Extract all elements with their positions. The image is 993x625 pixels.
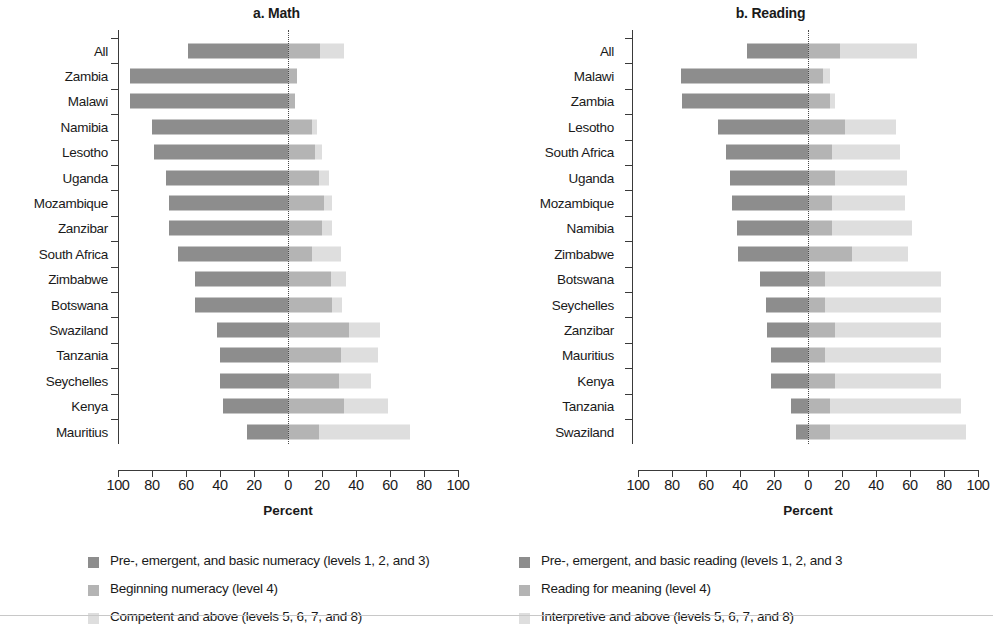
bar-segment: [747, 43, 808, 58]
bar-segment: [288, 297, 332, 312]
x-axis-tick: [740, 470, 741, 477]
legend-swatch: [88, 557, 99, 568]
bar-segment: [808, 399, 830, 414]
zero-reference-line-math: [288, 30, 289, 444]
x-axis-tick: [390, 470, 391, 477]
stacked-bar: [496, 43, 993, 58]
bar-segment: [332, 297, 342, 312]
bar-segment: [288, 424, 319, 439]
bar-segment: [766, 297, 809, 312]
chart-row: Zanzibar: [496, 317, 993, 342]
legend-swatch: [519, 557, 530, 568]
y-axis-tick: [111, 140, 118, 141]
stacked-bar: [496, 373, 993, 388]
bar-segment: [830, 399, 961, 414]
chart-row: Malawi: [496, 63, 993, 88]
bar-segment: [730, 170, 808, 185]
y-axis-tick: [625, 241, 632, 242]
y-axis-tick: [625, 343, 632, 344]
stacked-bar: [0, 196, 497, 211]
chart-row: South Africa: [0, 241, 497, 266]
stacked-bar: [496, 170, 993, 185]
bar-segment: [288, 43, 320, 58]
chart-row: Mozambique: [0, 190, 497, 215]
bar-segment: [339, 373, 371, 388]
chart-row: Uganda: [496, 165, 993, 190]
chart-row: Swaziland: [0, 317, 497, 342]
bar-segment: [195, 272, 289, 287]
stacked-bar: [496, 348, 993, 363]
x-axis-tick: [978, 470, 979, 477]
bar-segment: [166, 170, 288, 185]
chart-row: Namibia: [0, 114, 497, 139]
bottom-divider: [0, 615, 993, 616]
x-axis-tick: [706, 470, 707, 477]
bar-segment: [130, 94, 288, 109]
chart-row: Tanzania: [496, 394, 993, 419]
stacked-bar: [0, 424, 497, 439]
y-axis-line-reading: [632, 30, 633, 444]
bar-segment: [835, 373, 940, 388]
zero-reference-line-reading: [808, 30, 809, 444]
bar-segment: [832, 221, 912, 236]
bar-segment: [830, 94, 835, 109]
bar-segment: [808, 323, 835, 338]
panel-title-math: a. Math: [0, 5, 525, 21]
bar-segment: [682, 94, 808, 109]
chart-row: Tanzania: [0, 343, 497, 368]
bar-segment: [315, 145, 322, 160]
bar-segment: [718, 119, 808, 134]
bar-segment: [169, 196, 288, 211]
chart-row: Lesotho: [0, 140, 497, 165]
plot-area-math: AllZambiaMalawiNamibiaLesothoUgandaMozam…: [0, 30, 497, 460]
bar-segment: [195, 297, 289, 312]
x-axis-title-math: Percent: [0, 503, 537, 518]
bar-segment: [312, 246, 341, 261]
chart-row: Malawi: [0, 89, 497, 114]
bar-segment: [288, 94, 295, 109]
stacked-bar: [0, 119, 497, 134]
legend-label: Reading for meaning (level 4): [541, 581, 711, 596]
y-axis-tick: [625, 368, 632, 369]
y-axis-tick: [111, 267, 118, 268]
stacked-bar: [496, 272, 993, 287]
bar-segment: [737, 221, 808, 236]
bar-segment: [220, 373, 288, 388]
chart-row: Botswana: [0, 292, 497, 317]
bar-segment: [852, 246, 908, 261]
chart-row: South Africa: [496, 140, 993, 165]
stacked-bar: [0, 221, 497, 236]
chart-row: Seychelles: [496, 292, 993, 317]
bar-segment: [178, 246, 289, 261]
y-axis-tick: [111, 241, 118, 242]
y-axis-tick: [625, 317, 632, 318]
bar-segment: [681, 69, 809, 84]
x-axis-tick: [808, 470, 809, 477]
stacked-bar: [0, 348, 497, 363]
bar-segment: [808, 297, 825, 312]
x-axis-tick: [638, 470, 639, 477]
y-axis-tick: [625, 292, 632, 293]
x-axis-tick: [356, 470, 357, 477]
y-axis-tick: [111, 38, 118, 39]
chart-row: Zimbabwe: [496, 241, 993, 266]
y-axis-tick: [625, 267, 632, 268]
x-axis-tick: [774, 470, 775, 477]
legend-label: Pre-, emergent, and basic numeracy (leve…: [110, 553, 429, 568]
stacked-bar: [496, 221, 993, 236]
bar-segment: [732, 196, 809, 211]
bar-segment: [808, 170, 835, 185]
bar-segment: [154, 145, 288, 160]
bar-segment: [320, 43, 344, 58]
x-axis-tick: [254, 470, 255, 477]
bar-segment: [767, 323, 808, 338]
chart-row: Swaziland: [496, 419, 993, 444]
stacked-bar: [0, 145, 497, 160]
panel-math: a. Math AllZambiaMalawiNamibiaLesothoUga…: [0, 0, 497, 625]
bar-rows-reading: AllMalawiZambiaLesothoSouth AfricaUganda…: [496, 30, 993, 460]
stacked-bar: [496, 246, 993, 261]
legend-swatch: [519, 585, 530, 596]
bar-segment: [288, 246, 312, 261]
bar-segment: [169, 221, 288, 236]
stacked-bar: [496, 94, 993, 109]
